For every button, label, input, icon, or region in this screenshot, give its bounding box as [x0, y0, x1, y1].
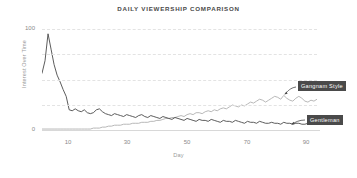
y-axis-label: Interest Over Time — [21, 34, 27, 94]
y-axis-tick-0: 0 — [0, 126, 35, 132]
plot-area — [42, 29, 317, 130]
y-axis-tick-100: 100 — [0, 25, 35, 31]
x-axis-tick-50: 50 — [177, 139, 197, 145]
annotation-label-gangnam-style: Gangnam Style — [298, 81, 346, 91]
chart-figure: DAILY VIEWERSHIP COMPARISON Interest Ove… — [0, 0, 357, 178]
page-title: DAILY VIEWERSHIP COMPARISON — [0, 5, 357, 12]
annotation-label-gentleman: Gentleman — [307, 115, 343, 125]
x-axis-tick-10: 10 — [58, 139, 78, 145]
gridline-50 — [42, 80, 317, 81]
x-axis-label: Day — [0, 152, 357, 158]
x-axis-tick-70: 70 — [237, 139, 257, 145]
gridline-100 — [42, 29, 317, 30]
gridline-25 — [42, 105, 317, 106]
line-gentleman — [42, 95, 317, 129]
x-axis-tick-90: 90 — [296, 139, 316, 145]
x-axis-line — [42, 130, 320, 131]
gridline-75 — [42, 54, 317, 55]
x-axis-tick-30: 30 — [117, 139, 137, 145]
